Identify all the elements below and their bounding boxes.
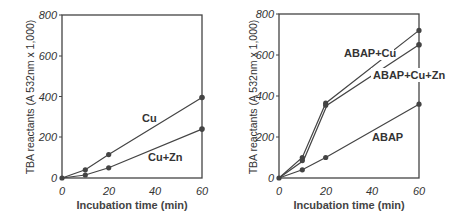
figure: 800 600 400 200 0 0 20 40 60 Incubation … [0, 0, 454, 222]
right-xtick-20: 20 [319, 185, 333, 197]
left-ytick-800: 800 [39, 9, 58, 21]
right-x-axis-label: Incubation time (min) [293, 199, 405, 211]
legend-abap: ABAP [372, 131, 403, 143]
series-cu-markers [59, 95, 204, 181]
legend-cu-zn: Cu+Zn [148, 151, 183, 163]
left-ytick-0: 0 [51, 172, 58, 184]
legend-abap-cu-zn: ABAP+Cu+Zn [373, 69, 445, 81]
left-xtick-20: 20 [102, 185, 116, 197]
legend-cu: Cu [142, 112, 157, 124]
right-xtick-40: 40 [366, 185, 379, 197]
right-xtick-60: 60 [413, 185, 426, 197]
series-abap-cu-zn-markers [300, 42, 422, 163]
left-chart: 800 600 400 200 0 0 20 40 60 Incubation … [24, 9, 209, 211]
left-ytick-200: 200 [38, 131, 58, 143]
right-ytick-800: 800 [256, 8, 275, 20]
right-ytick-0: 0 [268, 172, 275, 184]
left-xtick-60: 60 [196, 185, 209, 197]
right-xtick-0: 0 [276, 185, 283, 197]
left-ytick-600: 600 [39, 50, 58, 62]
legend-abap-cu: ABAP+Cu [344, 47, 396, 59]
right-chart: 800 600 400 200 0 0 20 40 60 Incubation … [247, 8, 445, 211]
right-plot-frame [279, 14, 419, 178]
left-ytick-400: 400 [39, 91, 58, 103]
left-xtick-0: 0 [59, 185, 66, 197]
left-y-axis-label: TBA reactants (A 532nm x 1,000) [24, 20, 36, 175]
left-x-axis-label: Incubation time (min) [76, 199, 188, 211]
left-xtick-40: 40 [149, 185, 162, 197]
right-y-axis-label: TBA reactants (A 532nm x 1,000) [247, 20, 259, 175]
